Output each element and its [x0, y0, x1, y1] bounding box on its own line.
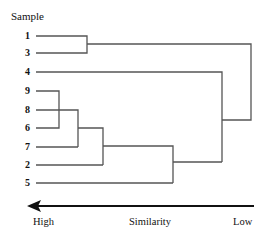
branch-13-root [87, 44, 251, 120]
axis-label-high: High [33, 216, 54, 227]
axis-label-similarity: Similarity [129, 216, 171, 227]
branch-cluster-a [78, 128, 103, 165]
branch-1-3 [36, 36, 87, 53]
axis-label-low: Low [233, 216, 252, 227]
dendrogram-tree [0, 0, 268, 240]
similarity-arrow [27, 200, 254, 212]
branch-cluster-b [103, 146, 173, 183]
branch-4 [36, 72, 222, 162]
